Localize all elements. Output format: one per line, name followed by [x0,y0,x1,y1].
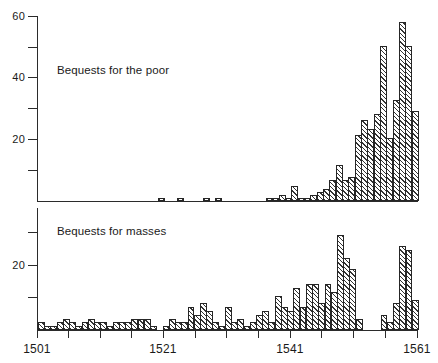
bottom-ytick-label-20: 20 [2,260,25,271]
bottom-plot-area [38,208,418,330]
top-x-axis-baseline [37,201,418,202]
top-bar-series [38,16,418,201]
xtick-1506 [68,331,69,338]
bar [356,319,363,330]
bottom-ytick-10 [28,297,37,298]
bar [177,198,184,201]
bottom-ytick-20 [28,265,37,266]
xtick-1511 [100,331,101,338]
xtick-1556 [385,331,386,338]
top-ytick-50 [28,47,37,48]
xtick-1521 [163,331,164,338]
xtick-1536 [258,331,259,338]
top-ytick-label-60: 60 [2,11,25,22]
bottom-x-axis-baseline [37,330,418,331]
chart-figure: 60 40 20 Bequests for the poor 20 Beques… [0,0,438,363]
bar [150,326,157,330]
xtick-1526 [195,331,196,338]
xtick-1516 [131,331,132,338]
xtick-label-1501: 1501 [14,343,60,355]
bar [215,198,222,201]
xtick-1551 [353,331,354,338]
bottom-ytick-30 [28,232,37,233]
xtick-1561 [417,331,418,338]
top-ytick-40 [28,77,37,78]
bar [412,300,419,331]
xtick-1546 [321,331,322,338]
top-ytick-20 [28,139,37,140]
top-ytick-10 [28,170,37,171]
xtick-1541 [290,331,291,338]
top-plot-area [38,16,418,201]
top-ytick-label-40: 40 [2,72,25,83]
bar [412,111,419,201]
xtick-label-1561: 1561 [394,343,438,355]
top-ytick-label-20: 20 [2,134,25,145]
xtick-label-1521: 1521 [140,343,186,355]
top-ytick-30 [28,108,37,109]
top-ytick-60 [28,16,37,17]
bar [158,198,165,201]
bottom-bar-series [38,208,418,330]
xtick-1531 [226,331,227,338]
xtick-label-1541: 1541 [267,343,313,355]
bar [203,198,210,201]
xtick-1501 [37,331,38,338]
